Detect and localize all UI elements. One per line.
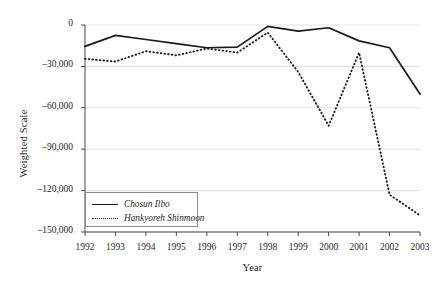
legend-label-chosun-ilbo: Chosun Ilbo [124,199,170,209]
y-tick-label: –120,000 [10,184,73,194]
x-axis-title: Year [85,262,420,273]
legend-swatch-solid-icon [92,204,118,205]
series-line-hankyoreh-shinmoon [85,33,420,216]
y-tick-label: 0 [10,18,73,28]
data-series-group [85,26,420,215]
legend-item-hankyoreh-shinmoon: Hankyoreh Shinmoon [92,211,204,225]
chart-legend: Chosun Ilbo Hankyoreh Shinmoon [85,192,198,227]
y-tick-label: –150,000 [10,225,73,235]
x-tick-marks [85,232,420,236]
y-tick-label: –90,000 [10,142,73,152]
y-tick-label: –60,000 [10,101,73,111]
legend-label-hankyoreh-shinmoon: Hankyoreh Shinmoon [124,213,204,223]
series-line-chosun-ilbo [85,26,420,94]
legend-swatch-dotted-icon [92,218,118,219]
x-tick-label: 2003 [400,242,432,252]
legend-item-chosun-ilbo: Chosun Ilbo [92,197,170,211]
chart-figure: Weighted Scale Year 0–30,000–60,000–90,0… [0,0,432,287]
y-tick-label: –30,000 [10,59,73,69]
